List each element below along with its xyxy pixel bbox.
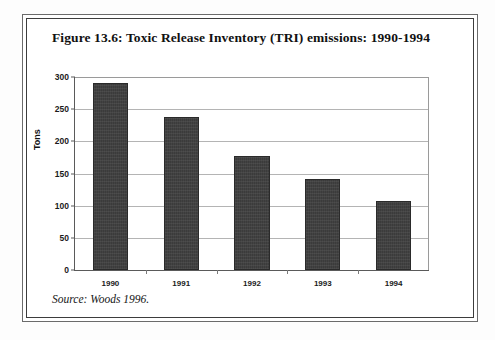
gridline xyxy=(75,141,429,142)
gridline xyxy=(75,77,429,78)
gridline xyxy=(75,109,429,110)
y-axis-tick-mark xyxy=(71,237,75,238)
x-axis-tick-mark xyxy=(358,270,359,274)
y-axis-tick-label: 200 xyxy=(55,136,69,146)
x-axis-tick-mark xyxy=(146,270,147,274)
bar xyxy=(93,83,128,270)
y-axis-tick-label: 50 xyxy=(60,233,69,243)
chart-area: Tons 05010015020025030019901991199219931… xyxy=(26,18,474,318)
x-axis-tick-mark xyxy=(287,270,288,274)
y-axis-tick-mark xyxy=(71,270,75,271)
x-axis-tick-label: 1993 xyxy=(314,279,332,288)
source-note: Source: Woods 1996. xyxy=(52,293,149,305)
y-axis-tick-label: 300 xyxy=(55,72,69,82)
y-axis-tick-mark xyxy=(71,173,75,174)
y-axis-tick-mark xyxy=(71,77,75,78)
scanned-page: Figure 13.6: Toxic Release Inventory (TR… xyxy=(0,0,495,340)
y-axis-tick-mark xyxy=(71,109,75,110)
x-axis-tick-label: 1991 xyxy=(172,279,190,288)
bar xyxy=(234,156,269,271)
x-axis-tick-mark xyxy=(217,270,218,274)
y-axis-tick-label: 100 xyxy=(55,201,69,211)
y-axis-tick-mark xyxy=(71,205,75,206)
y-axis-tick-label: 0 xyxy=(64,265,69,275)
y-axis-tick-label: 150 xyxy=(55,169,69,179)
x-axis-tick-label: 1994 xyxy=(385,279,403,288)
y-axis-tick-mark xyxy=(71,141,75,142)
y-axis-title: Tons xyxy=(32,129,42,150)
x-axis-tick-label: 1992 xyxy=(243,279,261,288)
bar xyxy=(164,117,199,270)
x-axis-tick-label: 1990 xyxy=(101,279,119,288)
y-axis-tick-label: 250 xyxy=(55,104,69,114)
plot-area: 05010015020025030019901991199219931994 xyxy=(74,77,429,271)
bar xyxy=(376,201,411,270)
bar xyxy=(305,179,340,270)
